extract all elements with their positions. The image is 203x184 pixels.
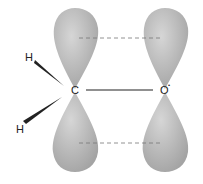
hydrogen-top-label: H — [25, 51, 33, 63]
carbon-upper-lobe — [54, 8, 98, 89]
oxygen-upper-lobe — [144, 8, 188, 89]
orbital-diagram: C O • H H — [0, 0, 203, 184]
c-h-bond-top — [34, 60, 64, 86]
oxygen-superscript: • — [168, 82, 170, 88]
c-h-bond-bottom — [23, 97, 62, 124]
hydrogen-bottom-label: H — [16, 123, 24, 135]
carbon-label: C — [71, 84, 79, 96]
carbon-lower-lobe — [53, 92, 98, 172]
oxygen-lower-lobe — [143, 92, 188, 172]
